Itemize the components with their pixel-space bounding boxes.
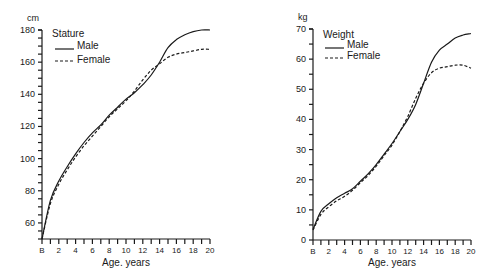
x-tick-label: 14 <box>155 246 164 255</box>
weight-axes: 010203040506070B2468101214161820 <box>296 24 476 256</box>
stature-legend-female: Female <box>77 54 111 65</box>
y-tick-label: 60 <box>296 54 306 64</box>
weight-lines <box>313 34 471 231</box>
x-tick-label: 18 <box>189 246 198 255</box>
x-tick-label: 2 <box>327 247 332 256</box>
y-tick-label: 50 <box>296 84 306 94</box>
x-tick-label: 20 <box>206 246 215 255</box>
x-tick-label: 16 <box>435 247 444 256</box>
x-tick-label: 20 <box>467 247 476 256</box>
x-tick-label: 6 <box>358 247 363 256</box>
stature-chart: cm 6080100120140160180B2468101214161820 … <box>20 13 215 268</box>
y-tick-label: 140 <box>20 89 35 99</box>
y-tick-label: 20 <box>296 175 306 185</box>
stature-female-line <box>42 49 210 239</box>
weight-unit-label: kg <box>298 12 308 22</box>
weight-x-axis-title: Age. years <box>368 257 416 268</box>
stature-legend: Stature Male Female <box>52 28 111 65</box>
x-tick-label: 10 <box>388 247 397 256</box>
stature-axes: 6080100120140160180B2468101214161820 <box>20 25 215 255</box>
y-tick-label: 60 <box>25 218 35 228</box>
x-tick-label: B <box>310 247 315 256</box>
stature-unit-label: cm <box>27 13 39 23</box>
x-tick-label: 8 <box>374 247 379 256</box>
x-tick-label: 18 <box>451 247 460 256</box>
y-tick-label: 180 <box>20 25 35 35</box>
y-tick-label: 40 <box>296 114 306 124</box>
weight-male-line <box>313 34 471 230</box>
x-tick-label: 4 <box>73 246 78 255</box>
x-tick-label: 4 <box>342 247 347 256</box>
y-tick-label: 120 <box>20 121 35 131</box>
weight-legend-female: Female <box>347 50 381 61</box>
x-tick-label: 8 <box>107 246 112 255</box>
x-tick-label: 16 <box>172 246 181 255</box>
growth-charts: cm 6080100120140160180B2468101214161820 … <box>0 0 492 280</box>
x-tick-label: 2 <box>57 246 62 255</box>
stature-legend-title: Stature <box>52 28 85 39</box>
x-tick-label: B <box>39 246 44 255</box>
x-tick-label: 12 <box>403 247 412 256</box>
x-tick-label: 6 <box>90 246 95 255</box>
y-tick-label: 70 <box>296 24 306 34</box>
x-tick-label: 10 <box>122 246 131 255</box>
x-tick-label: 14 <box>419 247 428 256</box>
y-tick-label: 30 <box>296 145 306 155</box>
weight-chart: kg 010203040506070B2468101214161820 Weig… <box>296 12 476 268</box>
stature-x-axis-title: Age. years <box>102 257 150 268</box>
stature-legend-male: Male <box>77 40 99 51</box>
x-tick-label: 12 <box>138 246 147 255</box>
y-tick-label: 10 <box>296 205 306 215</box>
weight-female-line <box>313 65 471 230</box>
y-tick-label: 100 <box>20 154 35 164</box>
y-tick-label: 80 <box>25 186 35 196</box>
weight-legend-male: Male <box>347 39 369 50</box>
y-tick-label: 160 <box>20 57 35 67</box>
weight-legend: Weight Male Female <box>323 29 381 61</box>
y-tick-label: 0 <box>301 235 306 245</box>
